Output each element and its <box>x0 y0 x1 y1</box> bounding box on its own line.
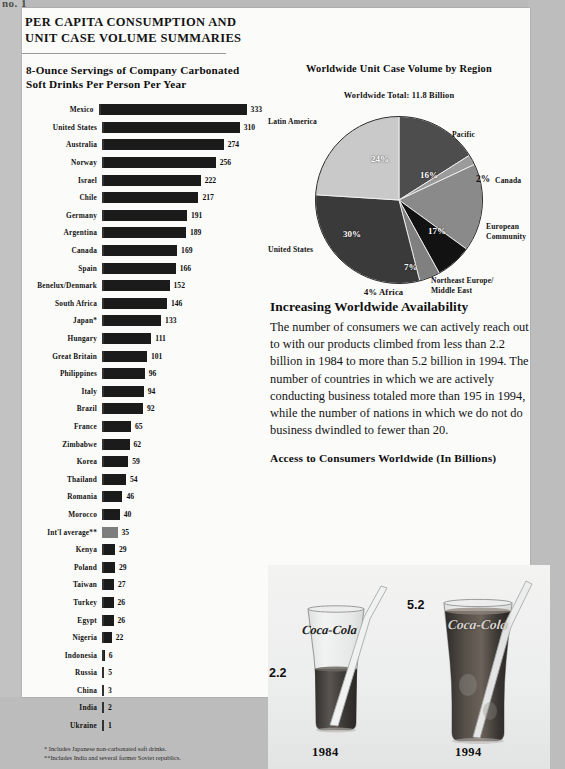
bar-row-fill <box>102 597 114 608</box>
bar-row-label: Philippines <box>22 369 102 378</box>
bar-row-value: 2 <box>104 703 112 712</box>
bar-row-track: 46 <box>102 491 262 502</box>
bar-chart-row: Chile217 <box>22 189 262 207</box>
page-title-line-2: UNIT CASE VOLUME SUMMARIES <box>25 30 285 46</box>
bar-row-label: Mexico <box>22 105 99 114</box>
bar-row-track: 54 <box>102 474 262 485</box>
bar-row-label: Morocco <box>22 510 102 519</box>
bar-row-label: Korea <box>22 457 102 466</box>
bar-row-label: United States <box>22 123 102 132</box>
bar-chart-row: South Africa146 <box>22 295 262 313</box>
bar-row-label: Zimbabwe <box>22 440 102 449</box>
bar-row-track: 62 <box>102 439 262 450</box>
bar-row-track: 2 <box>102 702 262 713</box>
bar-row-track: 146 <box>102 298 262 309</box>
glass-1984 <box>308 586 387 733</box>
pie-callout-africa: 4% Africa <box>364 288 403 298</box>
bar-row-track: 22 <box>102 632 262 643</box>
pie-percent-united-states: 30% <box>343 229 361 239</box>
bar-row-label: Canada <box>22 246 102 255</box>
bar-chart-row: Poland29 <box>22 558 262 576</box>
bar-chart-row: Australia274 <box>22 136 262 154</box>
pie-chart-heading: Worldwide Unit Case Volume by Region <box>268 63 530 74</box>
pie-percent-latin-america: 24% <box>371 154 389 164</box>
bar-row-fill <box>102 368 145 379</box>
bar-chart-heading-line-1: 8-Ounce Servings of Company Carbonated <box>26 64 239 76</box>
glass-value-1994: 5.2 <box>407 598 424 612</box>
pie-callout-canada-value: 2% <box>476 175 490 185</box>
page-title-line-1: PER CAPITA CONSUMPTION AND <box>25 14 285 30</box>
bar-row-value: 5 <box>104 668 112 677</box>
bar-chart-footnotes: * Includes Japanese non-carbonated soft … <box>44 744 262 762</box>
bar-chart-row: Thailand54 <box>22 470 262 488</box>
bar-row-label: Egypt <box>22 616 102 625</box>
bar-row-track: 27 <box>102 579 262 590</box>
prose-body: The number of consumers we can actively … <box>270 319 530 439</box>
access-glasses-figure: Coca-Cola Coca-Cola 2.2 5.2 1984 1994 <box>268 565 550 769</box>
page-margin-left <box>0 0 22 697</box>
bar-chart-row: Brazil92 <box>22 400 262 418</box>
bar-row-fill <box>102 157 216 168</box>
bar-row-fill <box>102 474 126 485</box>
pie-chart-svg <box>315 116 483 284</box>
pie-chart-total: Worldwide Total: 11.8 Billion <box>268 91 530 100</box>
bar-row-label: Japan* <box>22 316 102 325</box>
coca-cola-logo-1994: Coca-Cola <box>447 617 508 633</box>
bar-row-value: 35 <box>118 528 130 537</box>
glass-year-1984: 1984 <box>312 745 339 760</box>
bar-row-label: Kenya <box>22 545 102 554</box>
bar-chart-heading-line-2: Soft Drinks Per Person Per Year <box>26 78 186 90</box>
bar-row-label: Chile <box>22 193 102 202</box>
bar-chart-row: Turkey26 <box>22 594 262 612</box>
prose-block: Increasing Worldwide Availability The nu… <box>268 299 530 439</box>
pie-percent-pacific: 16% <box>420 170 438 180</box>
bar-row-fill <box>102 509 120 520</box>
bar-chart-row: Hungary111 <box>22 330 262 348</box>
bar-chart-row: Great Britain101 <box>22 347 262 365</box>
bar-row-track: 333 <box>99 104 262 115</box>
bar-row-track: 92 <box>102 403 262 414</box>
bar-row-label: Indonesia <box>22 651 102 660</box>
bar-row-value: 146 <box>167 299 182 308</box>
bar-chart-row: Romania46 <box>22 488 262 506</box>
bar-row-track: 111 <box>102 333 262 344</box>
bar-row-label: Benelux/Denmark <box>22 281 102 290</box>
footnote-1: * Includes Japanese non-carbonated soft … <box>44 744 262 753</box>
bar-chart-row: Israel222 <box>22 171 262 189</box>
bar-row-label: Spain <box>22 264 102 273</box>
bar-row-track: 217 <box>102 192 262 203</box>
bar-row-value: 62 <box>130 440 142 449</box>
bar-row-label: Nigeria <box>22 633 102 642</box>
bar-row-fill <box>102 227 186 238</box>
bar-row-value: 94 <box>144 387 156 396</box>
bar-row-label: Romania <box>22 492 102 501</box>
bar-row-fill <box>102 315 161 326</box>
bar-row-track: 191 <box>102 210 262 221</box>
bar-row-track: 40 <box>102 509 262 520</box>
bar-row-value: 310 <box>240 123 255 132</box>
pie-chart: 24% 16% 17% 7% 30% Latin America Pacific… <box>268 110 530 295</box>
bar-chart-row: Zimbabwe62 <box>22 435 262 453</box>
bar-row-track: 169 <box>102 245 262 256</box>
bar-row-fill <box>102 122 240 133</box>
pie-callout-pacific: Pacific <box>452 130 475 140</box>
bar-chart-row: Ukraine1 <box>22 717 262 735</box>
bar-row-label: Ukraine <box>22 721 102 730</box>
bar-row-fill <box>102 280 170 291</box>
bar-row-value: 111 <box>151 334 166 343</box>
pie-callout-united-states: United States <box>268 245 313 255</box>
bar-row-label: Australia <box>22 140 102 149</box>
bar-row-track: 94 <box>102 386 262 397</box>
bar-row-track: 96 <box>102 368 262 379</box>
bar-row-track: 35 <box>102 527 262 538</box>
bar-row-track: 26 <box>102 597 262 608</box>
bar-row-label: Taiwan <box>22 580 102 589</box>
pie-callout-ec-line-1: European <box>486 222 519 231</box>
bar-row-track: 133 <box>102 315 262 326</box>
bar-row-track: 26 <box>102 615 262 626</box>
bar-chart-row: Morocco40 <box>22 506 262 524</box>
bar-row-value: 92 <box>143 404 155 413</box>
bar-row-track: 152 <box>102 280 262 291</box>
bar-row-track: 1 <box>102 720 262 731</box>
bar-row-label: South Africa <box>22 299 102 308</box>
